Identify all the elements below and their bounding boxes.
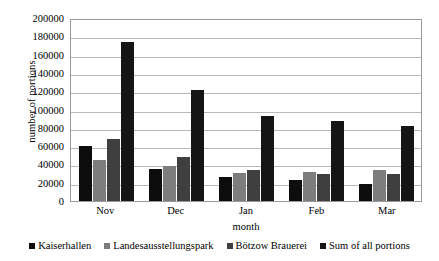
bars-layer	[71, 20, 421, 201]
legend-swatch-icon	[29, 243, 35, 249]
bar[interactable]	[163, 166, 176, 201]
bar-group	[141, 20, 211, 201]
bar[interactable]	[149, 169, 162, 201]
y-axis-tick-label: 20000	[38, 178, 64, 189]
bar[interactable]	[191, 90, 204, 201]
y-axis-tick-label: 40000	[38, 160, 64, 171]
bar[interactable]	[359, 184, 372, 201]
legend-swatch-icon	[320, 243, 326, 249]
legend-label: Sum of all portions	[329, 240, 410, 251]
y-axis-tick-label: 140000	[33, 69, 65, 80]
y-axis-tick-label: 80000	[38, 124, 64, 135]
x-axis-tick-labels: NovDecJanFebMar	[70, 205, 422, 216]
x-axis-tick-label: Mar	[352, 205, 422, 216]
y-axis-tick-label: 100000	[33, 105, 65, 116]
x-axis-tick-label: Nov	[70, 205, 140, 216]
bar[interactable]	[317, 174, 330, 201]
bar-group	[281, 20, 351, 201]
bar-group	[351, 20, 421, 201]
legend-label: Landesausstellungspark	[113, 240, 213, 251]
bar[interactable]	[303, 172, 316, 201]
bar[interactable]	[107, 139, 120, 201]
bar[interactable]	[247, 170, 260, 201]
bar[interactable]	[93, 160, 106, 201]
legend-swatch-icon	[227, 243, 233, 249]
legend-item[interactable]: Bötzow Brauerei	[227, 240, 307, 251]
y-axis-tick-label: 60000	[38, 142, 64, 153]
y-axis-tick-label: 160000	[33, 50, 65, 61]
bar[interactable]	[401, 126, 414, 201]
bar[interactable]	[177, 157, 190, 201]
y-axis-tick-label: 120000	[33, 87, 65, 98]
bar[interactable]	[331, 121, 344, 201]
chart-legend: KaiserhallenLandesausstellungsparkBötzow…	[0, 240, 439, 251]
bar[interactable]	[289, 180, 302, 201]
legend-item[interactable]: Sum of all portions	[320, 240, 410, 251]
y-axis-tick-label: 200000	[33, 14, 65, 25]
y-axis-tick-label: 180000	[33, 32, 65, 43]
y-axis-tick-label: 0	[59, 197, 64, 208]
plot-area	[70, 19, 422, 202]
x-axis-tick-label: Dec	[140, 205, 210, 216]
legend-item[interactable]: Landesausstellungspark	[104, 240, 213, 251]
legend-label: Kaiserhallen	[38, 240, 91, 251]
x-axis-title: month	[70, 221, 422, 232]
bar[interactable]	[373, 170, 386, 201]
bar[interactable]	[121, 42, 134, 201]
y-axis-tick-labels: 0200004000060000800001000001200001400001…	[14, 19, 68, 202]
x-axis-tick-label: Feb	[281, 205, 351, 216]
x-axis-tick-label: Jan	[211, 205, 281, 216]
bar[interactable]	[261, 116, 274, 201]
bar[interactable]	[387, 174, 400, 201]
bar[interactable]	[233, 173, 246, 201]
legend-swatch-icon	[104, 243, 110, 249]
bar-group	[211, 20, 281, 201]
bar-chart: number of portions 020000400006000080000…	[0, 0, 439, 261]
bar[interactable]	[79, 146, 92, 201]
legend-label: Bötzow Brauerei	[236, 240, 307, 251]
bar-group	[71, 20, 141, 201]
bar[interactable]	[219, 177, 232, 201]
legend-item[interactable]: Kaiserhallen	[29, 240, 91, 251]
